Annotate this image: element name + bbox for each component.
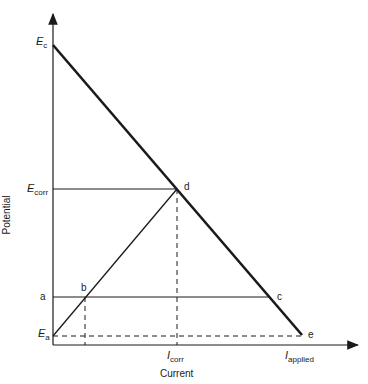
point-e: e [308, 330, 314, 340]
point-b: b [81, 283, 87, 293]
diagram-canvas [0, 0, 368, 384]
ecorr-label: Ecorr [27, 183, 48, 194]
ec-label: Ec [36, 36, 47, 47]
y-axis-label: Potential [2, 196, 12, 235]
anodic-line [53, 189, 177, 336]
iapplied-label: Iapplied [285, 350, 314, 361]
point-d: d [184, 182, 190, 192]
x-axis-label: Current [160, 369, 193, 379]
ea-label: Ea [38, 328, 50, 339]
icorr-label: Icorr [167, 350, 184, 361]
a-label: a [40, 292, 46, 302]
point-c: c [277, 292, 282, 302]
